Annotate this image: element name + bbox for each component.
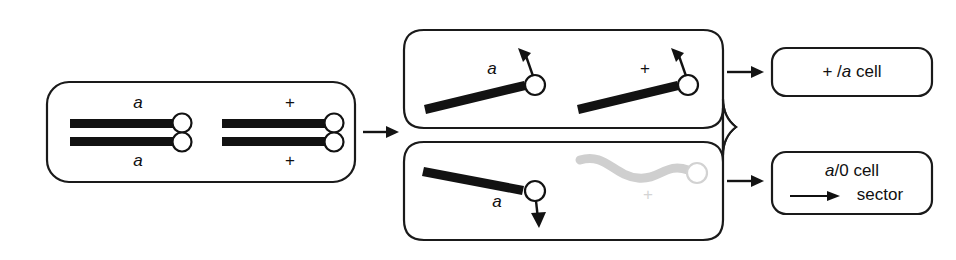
result-top-suffix: cell — [851, 62, 881, 81]
result-box-top: + /a cell — [772, 48, 932, 96]
centromere-top-plus — [678, 75, 698, 95]
label-bottom-a: a — [492, 192, 501, 211]
result-top-label: + /a cell — [822, 62, 881, 81]
label-top-a: a — [487, 59, 496, 78]
label-plus-bottom: + — [285, 151, 295, 170]
chromatid-bar-plus-bottom — [222, 137, 327, 146]
result-bottom-suffix: /0 cell — [835, 161, 879, 180]
chromatid-bar-a-top — [70, 119, 175, 128]
arrow-parent-to-daughters — [363, 126, 399, 138]
result-bottom-italic: a — [825, 161, 834, 180]
panel-parent-cell: a a + + — [47, 82, 355, 182]
genetics-segregation-diagram: a a + + — [0, 0, 956, 260]
centromere-plus-top — [325, 114, 344, 133]
result-top-prefix: + / — [822, 62, 842, 81]
label-bottom-plus-lost: + — [643, 185, 653, 204]
chromatid-bar-a-bottom — [70, 137, 175, 146]
panel-daughter-top: a + — [404, 30, 736, 155]
label-top-plus: + — [640, 59, 650, 78]
parent-cell-frame — [47, 82, 355, 182]
result-bottom-label-line1: a/0 cell — [825, 161, 879, 180]
label-a-bottom: a — [133, 151, 142, 170]
arrow-bottom-to-result — [727, 175, 764, 187]
result-bottom-label-line2: sector — [857, 185, 904, 204]
label-a-top: a — [133, 93, 142, 112]
centromere-bottom-a — [525, 181, 545, 201]
result-box-bottom: a/0 cell sector — [772, 152, 932, 214]
lost-chromosome-centromere — [687, 163, 707, 183]
arrow-top-to-result — [727, 66, 764, 78]
centromere-a-bottom — [173, 133, 192, 152]
centromere-plus-bottom — [325, 133, 344, 152]
centromere-top-a — [525, 75, 545, 95]
result-top-italic: a — [842, 62, 851, 81]
centromere-a-top — [173, 114, 192, 133]
label-plus-top: + — [285, 93, 295, 112]
chromatid-bar-plus-top — [222, 119, 327, 128]
